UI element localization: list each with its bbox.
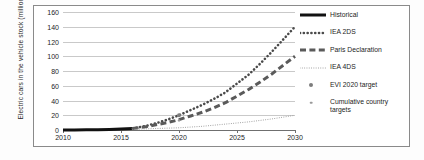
chart-figure: Electric cars in the vehicle stock (mill… <box>0 0 424 160</box>
x-tick-label: 2020 <box>171 134 187 141</box>
series-marker <box>177 113 181 117</box>
legend-label: Cumulative country targets <box>330 98 406 115</box>
legend-label: IEA 4DS <box>330 63 356 72</box>
legend-item[interactable]: Cumulative country targets <box>300 98 406 115</box>
x-tick-mark <box>237 130 238 133</box>
legend-label: Paris Declaration <box>330 45 382 54</box>
y-tick-label: 60 <box>51 82 59 89</box>
series-line <box>133 27 295 129</box>
dashed-line-key <box>300 45 326 55</box>
legend-label: IEA 2DS <box>330 28 356 37</box>
x-tick-mark <box>295 130 296 133</box>
series-line <box>133 115 295 129</box>
legend-dot-icon <box>309 83 313 87</box>
legend-item[interactable]: Paris Declaration <box>300 45 406 55</box>
legend-item[interactable]: EVI 2020 target <box>300 80 406 90</box>
fine-dotted-line-key <box>300 63 326 73</box>
legend-dot-icon <box>310 101 313 104</box>
y-tick-label: 40 <box>51 97 59 104</box>
data-series <box>63 12 295 130</box>
legend-label: EVI 2020 target <box>330 80 377 89</box>
y-tick-label: 120 <box>47 38 59 45</box>
y-tick-label: 140 <box>47 23 59 30</box>
large-dot-key <box>300 80 326 90</box>
series-line <box>63 129 133 130</box>
series-marker <box>178 119 180 121</box>
plot-area: 020406080100120140160 201020152020202520… <box>63 12 295 130</box>
x-tick-label: 2025 <box>229 134 245 141</box>
legend-item[interactable]: IEA 2DS <box>300 28 406 38</box>
series-line <box>133 56 295 128</box>
dotted-line-key <box>300 28 326 38</box>
legend-label: Historical <box>330 10 358 19</box>
y-axis-title: Electric cars in the vehicle stock (mill… <box>17 0 25 121</box>
x-tick-label: 2030 <box>287 134 303 141</box>
chart-legend: HistoricalIEA 2DSParis DeclarationIEA 4D… <box>300 10 406 122</box>
x-tick-label: 2010 <box>55 134 71 141</box>
y-tick-label: 160 <box>47 9 59 16</box>
y-tick-label: 20 <box>51 112 59 119</box>
legend-item[interactable]: IEA 4DS <box>300 63 406 73</box>
x-tick-label: 2015 <box>113 134 129 141</box>
y-tick-label: 100 <box>47 53 59 60</box>
x-tick-mark <box>179 130 180 133</box>
solid-thick-line-key <box>300 10 326 20</box>
legend-item[interactable]: Historical <box>300 10 406 20</box>
y-tick-label: 80 <box>51 68 59 75</box>
small-dot-key <box>300 98 326 108</box>
y-tick-label: 0 <box>55 127 59 134</box>
